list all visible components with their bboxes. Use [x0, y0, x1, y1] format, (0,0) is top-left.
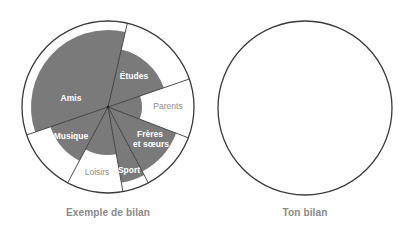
- wheel-diagrams: Amis Études Parents Frères et sœurs Spor…: [0, 0, 408, 236]
- caption-example: Exemple de bilan: [55, 206, 161, 218]
- blank-wheel: [218, 21, 392, 195]
- example-wheel: Amis Études Parents Frères et sœurs Spor…: [22, 21, 194, 193]
- label-freres-line2: et sœurs: [133, 139, 169, 149]
- label-parents: Parents: [153, 101, 182, 111]
- center-dot: [107, 106, 110, 109]
- label-musique: Musique: [54, 131, 89, 141]
- label-amis: Amis: [61, 93, 82, 103]
- label-etudes: Études: [120, 71, 149, 81]
- diagram-stage: Amis Études Parents Frères et sœurs Spor…: [0, 0, 408, 236]
- label-loisirs: Loisirs: [85, 167, 110, 177]
- label-sport: Sport: [118, 165, 140, 175]
- caption-yours: Ton bilan: [252, 206, 358, 218]
- blank-outer-circle: [218, 21, 392, 195]
- label-freres-line1: Frères: [137, 129, 163, 139]
